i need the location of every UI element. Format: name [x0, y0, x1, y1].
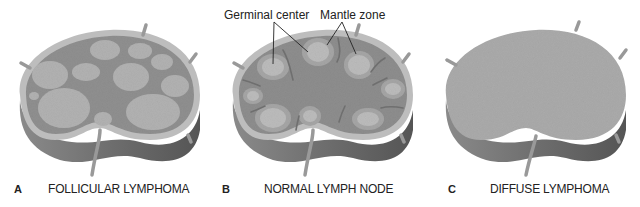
panel-title: FOLLICULAR LYMPHOMA: [48, 182, 189, 196]
panel-letter: A: [14, 183, 22, 195]
panel-title: NORMAL LYMPH NODE: [264, 182, 393, 196]
germinal-center-label: Germinal center: [224, 8, 309, 22]
panel-diffuse-lymphoma: C DIFFUSE LYMPHOMA: [426, 0, 639, 207]
diffuse-lymphoma-illustration: [426, 0, 639, 207]
panel-normal-lymph-node: Germinal center Mantle zone B NORMAL LYM…: [213, 0, 426, 207]
normal-lymph-node-illustration: [213, 0, 426, 207]
panel-follicular-lymphoma: A FOLLICULAR LYMPHOMA: [0, 0, 213, 207]
panel-letter: B: [222, 183, 230, 195]
panel-title: DIFFUSE LYMPHOMA: [490, 182, 609, 196]
panel-letter: C: [448, 183, 456, 195]
mantle-zone-label: Mantle zone: [320, 8, 385, 22]
follicular-lymphoma-illustration: [0, 0, 213, 207]
